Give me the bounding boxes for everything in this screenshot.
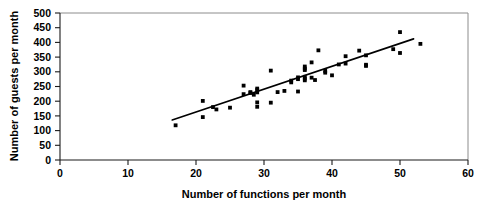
data-point: [276, 90, 280, 94]
plot-frame: [60, 13, 468, 160]
data-point: [283, 89, 287, 93]
data-point: [201, 115, 205, 119]
data-point: [398, 51, 402, 55]
data-points-group: [174, 30, 423, 127]
data-point: [419, 42, 423, 46]
x-axis-tick-labels: 0102030405060: [57, 167, 474, 179]
data-point: [313, 78, 317, 82]
x-tick-label: 50: [394, 167, 406, 179]
data-point: [364, 53, 368, 57]
y-tick-label: 100: [33, 124, 51, 136]
data-point: [364, 64, 368, 68]
y-tick-label: 50: [39, 139, 51, 151]
data-point: [174, 123, 178, 127]
y-tick-label: 150: [33, 110, 51, 122]
data-point: [398, 30, 402, 34]
data-point: [255, 105, 259, 109]
data-point: [252, 93, 256, 97]
data-point: [255, 100, 259, 104]
chart-canvas: 050100150200250300350400450500 010203040…: [0, 0, 487, 206]
data-point: [211, 105, 215, 109]
x-tick-label: 60: [462, 167, 474, 179]
data-point: [310, 60, 314, 64]
data-point: [317, 48, 321, 52]
data-point: [344, 62, 348, 66]
y-tick-label: 300: [33, 65, 51, 77]
data-point: [344, 54, 348, 58]
data-point: [228, 106, 232, 110]
y-axis-ticks: [55, 13, 60, 160]
scatter-plot-figure: 050100150200250300350400450500 010203040…: [0, 0, 487, 206]
data-point: [249, 91, 253, 95]
data-point: [303, 78, 307, 82]
data-point: [330, 73, 334, 77]
x-tick-label: 0: [57, 167, 63, 179]
data-point: [357, 49, 361, 53]
y-tick-label: 500: [33, 7, 51, 19]
y-axis-tick-labels: 050100150200250300350400450500: [33, 7, 51, 166]
y-tick-label: 200: [33, 95, 51, 107]
data-point: [310, 76, 314, 80]
data-point: [242, 92, 246, 96]
x-axis-ticks: [60, 160, 468, 165]
y-tick-label: 450: [33, 21, 51, 33]
data-point: [269, 101, 273, 105]
axes: [60, 13, 468, 160]
data-point: [337, 63, 341, 67]
data-point: [391, 47, 395, 51]
x-tick-label: 30: [258, 167, 270, 179]
x-tick-label: 40: [326, 167, 338, 179]
data-point: [255, 90, 259, 94]
y-tick-label: 350: [33, 51, 51, 63]
x-axis-title: Number of functions per month: [182, 188, 347, 200]
x-tick-label: 20: [190, 167, 202, 179]
data-point: [201, 99, 205, 103]
y-tick-label: 250: [33, 80, 51, 92]
data-point: [269, 69, 273, 73]
data-point: [215, 108, 219, 112]
y-tick-label: 400: [33, 36, 51, 48]
data-point: [289, 80, 293, 84]
y-tick-label: 0: [45, 154, 51, 166]
data-point: [242, 84, 246, 88]
data-point: [296, 77, 300, 81]
data-point: [303, 68, 307, 72]
y-axis-title: Number of guests per month: [8, 11, 20, 162]
data-point: [296, 90, 300, 94]
data-point: [323, 71, 327, 75]
x-tick-label: 10: [122, 167, 134, 179]
